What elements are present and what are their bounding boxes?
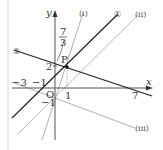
y-axis-arrow-icon: [53, 10, 58, 17]
line-2-label: ②: [13, 47, 20, 56]
frac-den: 3: [60, 37, 66, 48]
line-i-label: (i): [79, 9, 88, 18]
x-tick-neg1: −1: [32, 77, 47, 88]
coordinate-diagram: y x O 7 3 2 P −3 −1 1 7 −1 ① ② (i) (ii) …: [0, 0, 163, 150]
y-tick-2: 2: [46, 61, 52, 72]
y-tick-neg1: −1: [41, 97, 56, 108]
x-tick-7: 7: [132, 90, 138, 101]
line-ii-label: (ii): [135, 10, 146, 19]
line-ii: [17, 15, 138, 135]
line-iii-label: (iii): [135, 124, 149, 133]
y-axis-label: y: [45, 7, 52, 18]
point-p: [65, 65, 69, 69]
x-tick-neg3: −3: [12, 77, 27, 88]
line-1-label: ①: [114, 10, 121, 19]
frac-num: 7: [60, 26, 66, 37]
point-p-label: P: [61, 54, 68, 65]
x-axis-label: x: [146, 76, 152, 87]
x-tick-1: 1: [65, 90, 71, 101]
